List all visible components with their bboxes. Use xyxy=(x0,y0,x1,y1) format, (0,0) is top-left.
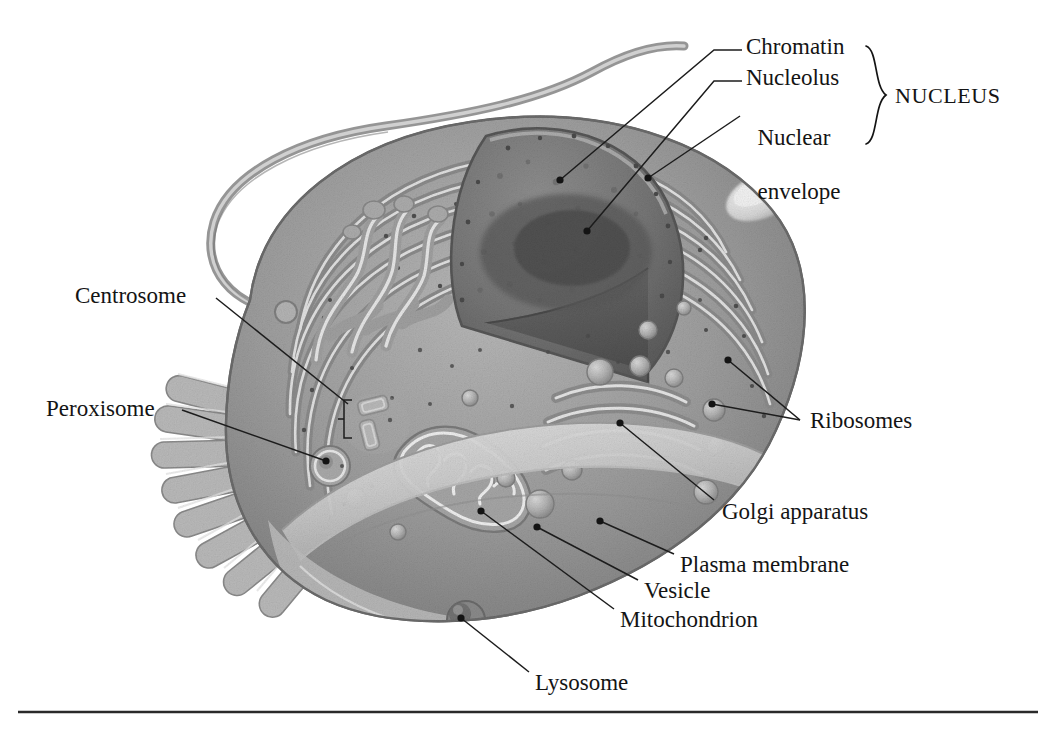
label-nuclear-envelope-line1: Nuclear xyxy=(758,125,831,150)
label-golgi-apparatus: Golgi apparatus xyxy=(722,499,868,525)
label-chromatin: Chromatin xyxy=(746,34,844,60)
label-nuclear-envelope: Nuclear envelope xyxy=(746,97,841,205)
label-lysosome: Lysosome xyxy=(535,670,628,696)
label-nucleus-group: NUCLEUS xyxy=(895,83,1001,109)
label-mitochondrion: Mitochondrion xyxy=(620,607,758,633)
label-nuclear-envelope-line2: envelope xyxy=(758,179,841,204)
centrosome xyxy=(342,394,410,454)
label-centrosome: Centrosome xyxy=(75,283,186,309)
animal-cell-diagram xyxy=(0,0,1055,731)
label-nucleolus: Nucleolus xyxy=(746,65,839,91)
label-ribosomes: Ribosomes xyxy=(810,408,912,434)
basal-body xyxy=(275,301,297,323)
label-vesicle: Vesicle xyxy=(644,578,710,604)
nucleus-brace xyxy=(866,46,886,144)
label-peroxisome: Peroxisome xyxy=(46,396,155,422)
label-plasma-membrane: Plasma membrane xyxy=(680,552,849,578)
